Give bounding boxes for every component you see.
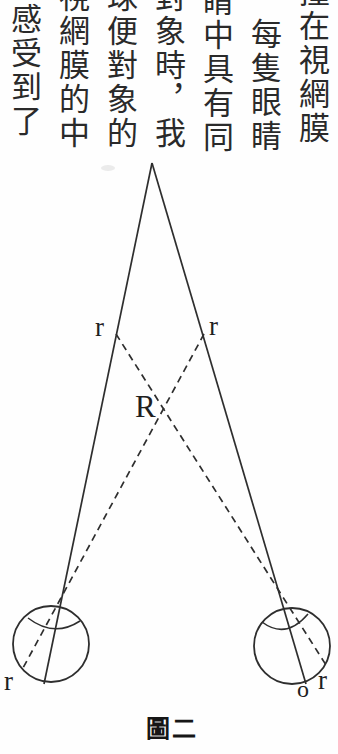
dashed-line-right-to-left-eye (23, 334, 204, 668)
scan-smudge (101, 165, 115, 171)
book-page: 撞在視網膜 每隻眼睛 睛中具有同 對象時，我 球便對象的 視網膜的中 感受到了 … (0, 0, 338, 754)
label-o-point: o (297, 676, 309, 702)
label-r-lower-right: r (318, 665, 327, 695)
label-R-point: R (135, 389, 156, 424)
figure-caption: 圖二 (146, 709, 198, 744)
right-sight-line (152, 163, 306, 684)
dashed-line-left-to-right-eye (116, 334, 326, 665)
binocular-vision-diagram: r r R r o r (0, 0, 338, 754)
left-eyeball (13, 606, 89, 682)
left-eye-lens-arc (28, 618, 80, 629)
label-r-upper-right: r (209, 311, 218, 341)
label-r-upper-left: r (95, 312, 104, 342)
label-r-lower-left: r (4, 666, 13, 696)
